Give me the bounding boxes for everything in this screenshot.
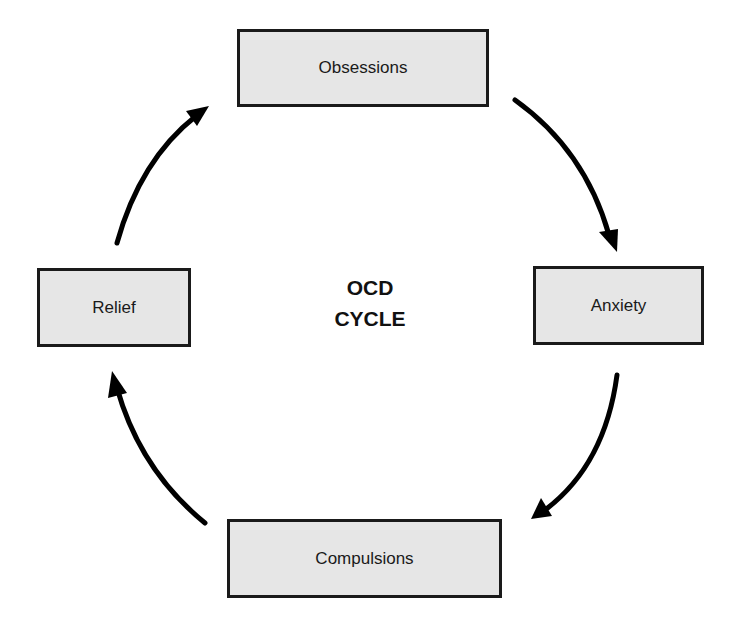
- center-label-line1: OCD: [300, 272, 440, 303]
- node-compulsions: Compulsions: [227, 519, 502, 598]
- node-obsessions-label: Obsessions: [319, 58, 408, 78]
- node-relief-label: Relief: [92, 298, 135, 318]
- node-anxiety-label: Anxiety: [591, 296, 647, 316]
- arrow-compulsions-to-relief: [108, 371, 205, 523]
- node-obsessions: Obsessions: [237, 29, 489, 107]
- node-compulsions-label: Compulsions: [315, 549, 413, 569]
- node-relief: Relief: [37, 268, 191, 347]
- center-label: OCD CYCLE: [300, 272, 440, 334]
- arrow-relief-to-obsessions: [117, 106, 209, 243]
- arrow-anxiety-to-compulsions: [531, 375, 617, 519]
- node-anxiety: Anxiety: [533, 266, 704, 345]
- center-label-line2: CYCLE: [300, 303, 440, 334]
- arrow-obsessions-to-anxiety: [515, 100, 618, 252]
